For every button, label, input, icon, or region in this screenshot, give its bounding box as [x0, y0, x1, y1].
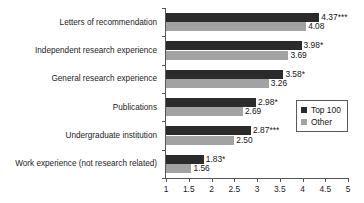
category-label: Undergraduate institution: [0, 131, 162, 140]
x-axis-tick-label: 5: [346, 184, 351, 194]
bar-1: [166, 79, 269, 88]
category-label: Independent research experience: [0, 46, 162, 55]
x-axis-tick-label: 4: [300, 184, 305, 194]
bar-value-label: 3.98*: [302, 41, 324, 50]
x-axis-tick: [325, 178, 326, 182]
x-axis-tick: [234, 178, 235, 182]
x-axis-tick-label: 1: [164, 184, 169, 194]
x-axis-tick: [303, 178, 304, 182]
legend-swatch-icon: [301, 119, 307, 125]
x-axis-tick: [189, 178, 190, 182]
x-axis-tick-label: 3.5: [274, 184, 286, 194]
bar-value-label: 2.87***: [251, 126, 279, 135]
category-label: General research experience: [0, 74, 162, 83]
category-label: Publications: [0, 103, 162, 112]
bar-value-label: 2.50: [234, 136, 252, 145]
legend: Top 100Other: [296, 100, 348, 132]
bar-1: [166, 107, 243, 116]
x-axis-tick-label: 2: [209, 184, 214, 194]
bar-0: [166, 126, 251, 135]
legend-label: Other: [311, 118, 332, 127]
bar-1: [166, 22, 306, 31]
x-axis-tick-label: 4.5: [319, 184, 331, 194]
x-axis-tick: [257, 178, 258, 182]
bar-0: [166, 98, 256, 107]
x-axis-tick-label: 3: [255, 184, 260, 194]
x-axis-tick: [212, 178, 213, 182]
plot-area: 4.37***4.083.98*3.693.58*3.262.98*2.692.…: [166, 8, 348, 178]
legend-label: Top 100: [311, 106, 341, 115]
x-axis-tick: [280, 178, 281, 182]
legend-item: Top 100: [301, 104, 341, 116]
x-axis-tick: [348, 178, 349, 182]
y-axis-tick: [162, 65, 166, 66]
bar-0: [166, 13, 319, 22]
bar-0: [166, 41, 302, 50]
bar-value-label: 3.69: [288, 51, 306, 60]
bar-0: [166, 70, 283, 79]
category-label: Work experience (not research related): [0, 159, 162, 168]
x-axis-tick-label: 2.5: [228, 184, 240, 194]
bar-value-label: 1.56: [191, 164, 209, 173]
y-axis-tick: [162, 8, 166, 9]
x-axis-tick-label: 1.5: [183, 184, 195, 194]
category-axis-labels: Letters of recommendationIndependent res…: [0, 0, 162, 203]
category-label: Letters of recommendation: [0, 18, 162, 27]
y-axis-tick: [162, 93, 166, 94]
legend-item: Other: [301, 116, 341, 128]
bar-1: [166, 51, 288, 60]
y-axis-tick: [162, 150, 166, 151]
y-axis-tick: [162, 121, 166, 122]
bar-1: [166, 136, 234, 145]
bar-chart: Letters of recommendationIndependent res…: [0, 0, 364, 203]
bar-value-label: 2.69: [243, 107, 261, 116]
bar-value-label: 4.08: [306, 22, 324, 31]
y-axis-tick: [162, 36, 166, 37]
bar-value-label: 3.26: [269, 79, 287, 88]
x-axis-tick: [166, 178, 167, 182]
legend-swatch-icon: [301, 107, 307, 113]
bar-1: [166, 164, 191, 173]
